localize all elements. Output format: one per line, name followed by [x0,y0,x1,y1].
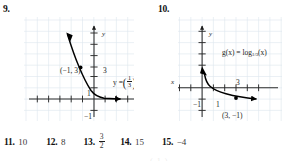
answer-item-15: 15. −4 [162,137,186,147]
answer-value-11: 10 [18,137,27,147]
answer-number-13: 13. [84,137,95,147]
answer-key-page: 9. [0,0,282,161]
problem-number-10: 10. [158,4,169,14]
function-argument: (x) [258,48,267,57]
answer-value-12: 8 [61,137,66,147]
right-paren: ) [133,77,134,88]
answer-item-12: 12. 8 [46,137,65,147]
answer-number-15: 15. [162,137,173,147]
x-tick-label-3: 3 [236,79,240,87]
answer-value-13: 32 [98,133,105,149]
base-fraction: 13 [127,75,132,89]
equation-label-9: y =(13)x [113,75,134,89]
answer-item-14: 14. 15 [120,137,144,147]
clipped-scan-artifact: ( 1 ) [150,157,230,161]
y-axis-label-9: y [102,31,105,38]
y-tick-label-neg1: −1 [84,113,92,121]
logarithmic-curve [205,75,256,100]
answer-number-14: 14. [120,137,131,147]
answer-item-11: 11. 10 [4,137,27,147]
x-tick-label-1: 1 [216,101,220,109]
answer-number-11: 11. [4,137,15,147]
function-label-10: g(x) = log1/3(x) [222,49,267,58]
graph-problem-10: y 3 1 −1 (3, −1) g(x) = log1/3(x) [178,17,282,121]
equation-lhs: y = [113,78,123,87]
point-label-3-neg1: (3, −1) [222,112,242,120]
curve-arrow-up [66,32,73,42]
answer-number-12: 12. [46,137,57,147]
curve-arrow-up [200,67,207,76]
x-tick-label-neg1: −1 [193,101,201,109]
graph-problem-9: y x (−1, 3) 3 1 −1 y =(13)x [24,17,134,121]
x-axis-label-10: x [171,79,174,86]
problem-number-9: 9. [3,4,10,14]
y-axis-label-10-glyph: y [209,31,212,38]
plotted-point-3-neg1 [234,96,238,100]
answer-value-14: 15 [135,137,144,147]
fraction-3-over-2: 32 [99,133,105,149]
y-tick-label-1: 1 [87,90,91,98]
left-paren: ( [123,77,127,88]
answer-row: 11. 10 12. 8 13. 32 14. 15 15. −4 [4,133,280,149]
point-label-neg1-3: (−1, 3) [60,67,80,75]
y-tick-label-3: 3 [103,67,107,75]
function-lhs: g(x) = log [222,48,252,57]
answer-value-15: −4 [177,137,187,147]
answer-item-13: 13. 32 [84,133,106,149]
